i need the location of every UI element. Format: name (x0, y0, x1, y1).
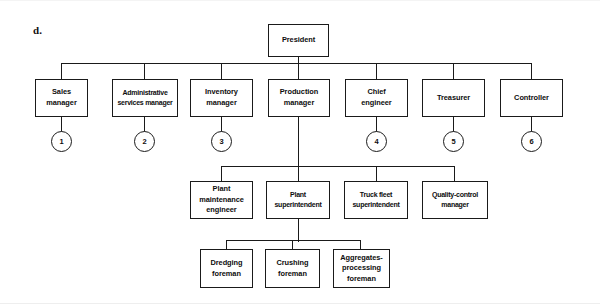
marker-circle-sales-label: 1 (59, 137, 63, 146)
node-plant-superintendent[interactable]: Plant superintendent (266, 181, 330, 219)
figure-part-label: d. (33, 24, 42, 36)
node-president[interactable]: President (268, 24, 329, 57)
connector-drop-administrative (144, 63, 145, 79)
node-inventory-manager-label: Inventory manager (203, 87, 240, 108)
marker-circle-controller[interactable]: 6 (521, 131, 542, 152)
scan-edge-top (0, 0, 600, 1)
scan-edge-bottom (0, 303, 600, 304)
connector-level2-bus (221, 166, 455, 167)
connector-drop-crushing (292, 240, 293, 249)
node-chief-engineer[interactable]: Chief engineer (345, 79, 408, 117)
connector-drop-treasurer (453, 63, 454, 79)
connector-sales-marker (61, 117, 62, 132)
node-quality-control-manager-label: Quality-control manager (430, 190, 480, 210)
node-administrative-services-manager[interactable]: Administrative services manager (112, 79, 178, 117)
connector-drop-plant-maintenance (221, 166, 222, 182)
connector-controller-marker (531, 117, 532, 132)
node-aggregates-processing-foreman[interactable]: Aggregates- processing foreman (333, 249, 390, 288)
connector-drop-quality-control (454, 166, 455, 182)
connector-drop-sales (61, 63, 62, 79)
marker-circle-treasurer-label: 5 (451, 137, 455, 146)
node-plant-maintenance-engineer-label: Plant maintenance engineer (197, 184, 246, 216)
organization-chart-figure: d. President Sales manager Administrativ… (0, 0, 600, 305)
connector-chief-engineer-marker (376, 117, 377, 132)
node-aggregates-processing-foreman-label: Aggregates- processing foreman (338, 253, 385, 285)
node-crushing-foreman[interactable]: Crushing foreman (265, 249, 320, 288)
connector-administrative-marker (144, 117, 145, 132)
connector-drop-plant-superintendent (298, 166, 299, 182)
node-president-label: President (280, 35, 317, 46)
connector-level1-bus (61, 63, 531, 64)
marker-circle-inventory-label: 3 (219, 137, 223, 146)
connector-drop-inventory (221, 63, 222, 79)
marker-circle-sales[interactable]: 1 (51, 131, 72, 152)
connector-inventory-marker (221, 117, 222, 132)
node-treasurer-label: Treasurer (435, 93, 472, 104)
node-inventory-manager[interactable]: Inventory manager (190, 79, 253, 117)
node-truck-fleet-superintendent[interactable]: Truck fleet superintendent (344, 181, 408, 219)
node-dredging-foreman[interactable]: Dredging foreman (200, 249, 253, 288)
marker-circle-chief-engineer-label: 4 (374, 137, 378, 146)
connector-drop-aggregates (360, 240, 361, 249)
node-treasurer[interactable]: Treasurer (422, 79, 485, 117)
marker-circle-administrative[interactable]: 2 (134, 131, 155, 152)
marker-circle-chief-engineer[interactable]: 4 (366, 131, 387, 152)
node-crushing-foreman-label: Crushing foreman (274, 258, 310, 279)
node-controller-label: Controller (512, 93, 551, 104)
node-quality-control-manager[interactable]: Quality-control manager (422, 181, 488, 219)
node-dredging-foreman-label: Dredging foreman (208, 258, 244, 279)
node-production-manager[interactable]: Production manager (268, 79, 330, 117)
connector-drop-truck-fleet (376, 166, 377, 182)
node-sales-manager-label: Sales manager (44, 87, 78, 108)
connector-level3-bus (226, 240, 361, 241)
node-plant-superintendent-label: Plant superintendent (272, 190, 323, 210)
marker-circle-controller-label: 6 (529, 137, 533, 146)
connector-production-down (298, 117, 299, 167)
connector-treasurer-marker (453, 117, 454, 132)
marker-circle-treasurer[interactable]: 5 (443, 131, 464, 152)
marker-circle-inventory[interactable]: 3 (211, 131, 232, 152)
node-truck-fleet-superintendent-label: Truck fleet superintendent (350, 190, 401, 210)
node-sales-manager[interactable]: Sales manager (35, 79, 88, 117)
node-administrative-services-manager-label: Administrative services manager (115, 88, 174, 108)
marker-circle-administrative-label: 2 (142, 137, 146, 146)
connector-drop-chief-engineer (376, 63, 377, 79)
node-controller[interactable]: Controller (500, 79, 563, 117)
connector-plant-superintendent-down (298, 218, 299, 242)
connector-drop-dredging (226, 240, 227, 249)
node-plant-maintenance-engineer[interactable]: Plant maintenance engineer (190, 181, 253, 219)
node-chief-engineer-label: Chief engineer (359, 87, 393, 108)
node-production-manager-label: Production manager (278, 87, 321, 108)
connector-drop-controller (531, 63, 532, 79)
connector-drop-production (298, 63, 299, 79)
